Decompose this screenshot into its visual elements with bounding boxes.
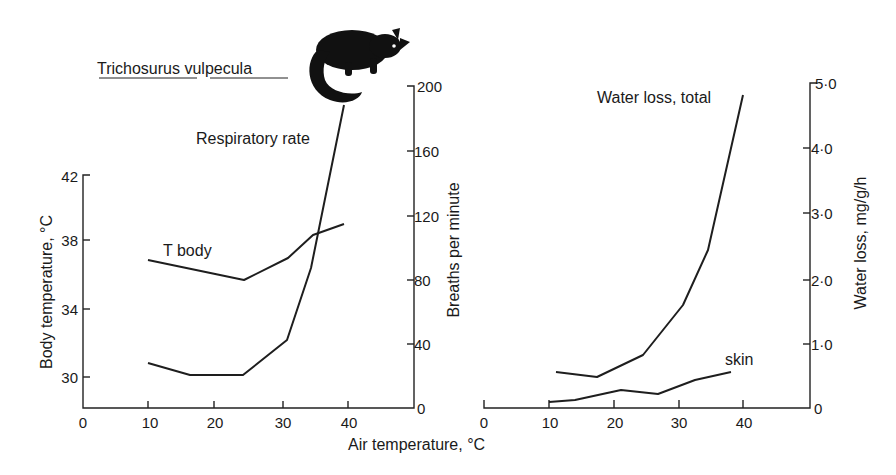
left-x-tick-0: 0: [79, 414, 87, 431]
mid-y-axis-title: Breaths per minute: [445, 182, 462, 317]
series-label-water-loss-total: Water loss, total: [597, 89, 711, 106]
right-chart-axes: [484, 83, 817, 408]
mid-y-tick-80: 80: [414, 272, 431, 289]
right-x-tick-40: 40: [736, 414, 753, 431]
right-y-tick-1: 1·0: [811, 336, 833, 353]
series-label-t-body: T body: [163, 242, 212, 259]
right-x-tick-20: 20: [607, 414, 624, 431]
mid-y-tick-40: 40: [414, 336, 431, 353]
right-y-tick-5: 5·0: [815, 75, 837, 92]
left-x-tick-20: 20: [207, 414, 224, 431]
right-y-axis-title: Water loss, mg/g/h: [852, 177, 869, 310]
mid-y-tick-0: 0: [417, 400, 425, 417]
mid-y-tick-160: 160: [414, 143, 439, 160]
series-water-loss-total: [556, 95, 743, 377]
left-chart: 42 38 34 30 0 40 80 120 160 200 0 10 20 …: [38, 78, 462, 431]
right-y-tick-4: 4·0: [811, 140, 833, 157]
x-axis-title: Air temperature, °C: [348, 436, 485, 453]
left-y-tick-30: 30: [61, 369, 78, 386]
right-y-tick-3: 3·0: [811, 205, 833, 222]
right-chart: 0 1·0 2·0 3·0 4·0 5·0 0 10 20 30 40 Wate…: [480, 75, 869, 431]
possum-silhouette-icon: [309, 28, 410, 102]
series-label-skin: skin: [725, 351, 753, 368]
right-x-tick-0: 0: [480, 414, 488, 431]
series-water-loss-skin: [549, 372, 731, 402]
right-y-tick-0: 0: [814, 400, 822, 417]
series-label-respiratory-rate: Respiratory rate: [196, 130, 310, 147]
mid-y-tick-120: 120: [414, 208, 439, 225]
right-x-tick-10: 10: [542, 414, 559, 431]
left-y-axis-title: Body temperature, °C: [38, 215, 55, 369]
left-x-tick-30: 30: [275, 414, 292, 431]
left-y-tick-34: 34: [61, 301, 78, 318]
figure-canvas: Trichosurus vulpecula 42 38 34 30: [0, 0, 896, 475]
right-x-tick-30: 30: [671, 414, 688, 431]
right-y-tick-2: 2·0: [811, 272, 833, 289]
left-x-tick-10: 10: [142, 414, 159, 431]
mid-y-tick-200: 200: [417, 78, 442, 95]
left-y-tick-38: 38: [61, 232, 78, 249]
left-y-tick-42: 42: [61, 168, 78, 185]
species-title: Trichosurus vulpecula: [97, 60, 252, 77]
left-x-tick-40: 40: [341, 414, 358, 431]
